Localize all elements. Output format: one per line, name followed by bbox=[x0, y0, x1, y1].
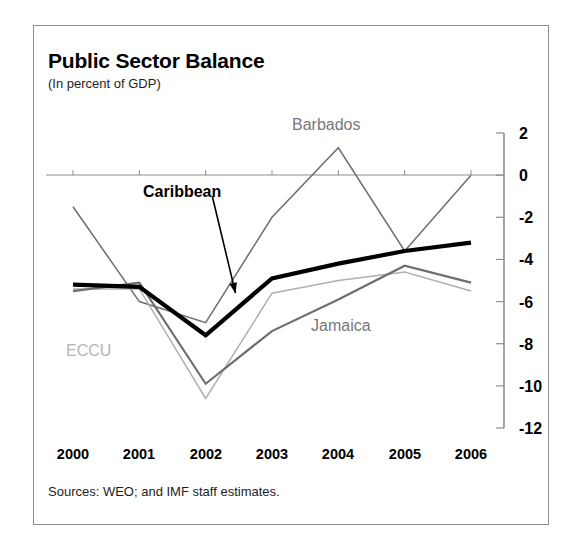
chart-subtitle: (In percent of GDP) bbox=[48, 76, 161, 91]
chart-figure: Public Sector Balance (In percent of GDP… bbox=[0, 0, 582, 552]
y-tick-label--4: -4 bbox=[519, 251, 533, 269]
x-tick-label-2003: 2003 bbox=[256, 446, 288, 462]
y-tick-label-2: 2 bbox=[519, 125, 528, 143]
series-label-caribbean: Caribbean bbox=[143, 183, 221, 201]
y-tick-label--8: -8 bbox=[519, 336, 533, 354]
chart-source-note: Sources: WEO; and IMF staff estimates. bbox=[48, 484, 280, 499]
y-tick-label-0: 0 bbox=[519, 167, 528, 185]
y-tick-label--12: -12 bbox=[519, 420, 542, 438]
x-tick-label-2001: 2001 bbox=[123, 446, 155, 462]
y-tick-label--10: -10 bbox=[519, 378, 542, 396]
x-tick-label-2000: 2000 bbox=[57, 446, 89, 462]
series-label-barbados: Barbados bbox=[292, 116, 361, 134]
y-tick-label--6: -6 bbox=[519, 294, 533, 312]
chart-title: Public Sector Balance bbox=[48, 49, 264, 73]
y-tick-label--2: -2 bbox=[519, 209, 533, 227]
x-tick-label-2006: 2006 bbox=[455, 446, 487, 462]
series-label-jamaica: Jamaica bbox=[311, 317, 371, 335]
x-tick-label-2002: 2002 bbox=[190, 446, 222, 462]
x-tick-label-2004: 2004 bbox=[322, 446, 354, 462]
series-label-eccu: ECCU bbox=[66, 342, 111, 360]
x-tick-label-2005: 2005 bbox=[389, 446, 421, 462]
